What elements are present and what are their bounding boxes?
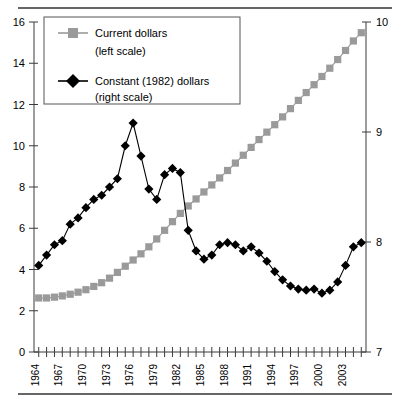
x-axis-tick-label: 1964	[30, 364, 41, 387]
data-point-current-dollars	[287, 105, 294, 112]
data-point-current-dollars	[59, 292, 66, 299]
x-axis-tick-label: 1991	[242, 364, 253, 387]
data-point-constant-dollars	[223, 238, 232, 247]
data-point-constant-dollars	[129, 118, 138, 127]
data-point-current-dollars	[137, 250, 144, 257]
data-point-current-dollars	[232, 159, 239, 166]
data-point-current-dollars	[114, 269, 121, 276]
data-point-current-dollars	[350, 37, 357, 44]
legend-marker-square-icon	[68, 28, 78, 38]
data-point-current-dollars	[169, 218, 176, 225]
left-axis-tick-label: 0	[19, 346, 25, 358]
chart-svg: 0246810121416 78910 19641967197019731976…	[0, 0, 400, 402]
left-axis-tick-label: 14	[13, 57, 25, 69]
data-point-current-dollars	[303, 89, 310, 96]
data-point-current-dollars	[35, 294, 42, 301]
x-axis-tick-label: 1985	[195, 364, 206, 387]
legend-sublabel-constant: (right scale)	[95, 91, 152, 103]
data-point-constant-dollars	[144, 184, 153, 193]
data-point-current-dollars	[334, 56, 341, 63]
left-axis-tick-label: 8	[19, 181, 25, 193]
chart-figure: 0246810121416 78910 19641967197019731976…	[0, 0, 400, 402]
data-point-current-dollars	[310, 81, 317, 88]
data-point-current-dollars	[240, 152, 247, 159]
data-point-constant-dollars	[207, 250, 216, 259]
data-point-constant-dollars	[121, 141, 130, 150]
data-point-current-dollars	[248, 144, 255, 151]
data-point-current-dollars	[208, 181, 215, 188]
data-point-constant-dollars	[58, 236, 67, 245]
x-axis-tick-label: 1982	[171, 364, 182, 387]
data-point-constant-dollars	[34, 261, 43, 270]
left-axis-tick-label: 16	[13, 16, 25, 28]
data-point-current-dollars	[145, 243, 152, 250]
data-point-constant-dollars	[341, 261, 350, 270]
x-axis-tick-label: 1994	[266, 364, 277, 387]
data-point-current-dollars	[263, 129, 270, 136]
data-point-current-dollars	[122, 263, 129, 270]
right-axis-tick-label: 10	[376, 16, 388, 28]
data-point-current-dollars	[358, 29, 365, 36]
right-axis-tick-label: 9	[376, 126, 382, 138]
data-point-constant-dollars	[184, 226, 193, 235]
x-axis-tick-labels: 1964196719701973197619791982198519881991…	[30, 364, 348, 387]
x-axis-tick-label: 1979	[148, 364, 159, 387]
x-axis-tick-label: 1967	[53, 364, 64, 387]
x-axis-tick-label: 1973	[101, 364, 112, 387]
data-point-constant-dollars	[317, 289, 326, 298]
right-axis-tick-label: 7	[376, 346, 382, 358]
x-axis-tick-label: 1997	[289, 364, 300, 387]
data-point-current-dollars	[216, 174, 223, 181]
data-point-current-dollars	[74, 289, 81, 296]
series-constant-dollars	[34, 118, 366, 297]
legend-label-current: Current dollars	[95, 27, 168, 39]
left-axis-tick-label: 2	[19, 305, 25, 317]
data-point-current-dollars	[177, 210, 184, 217]
data-point-constant-dollars	[294, 284, 303, 293]
data-point-constant-dollars	[215, 240, 224, 249]
x-axis-tick-label: 2000	[313, 364, 324, 387]
data-point-current-dollars	[161, 227, 168, 234]
data-point-constant-dollars	[176, 168, 185, 177]
data-point-current-dollars	[279, 113, 286, 120]
data-point-current-dollars	[90, 283, 97, 290]
data-point-current-dollars	[200, 188, 207, 195]
data-point-constant-dollars	[50, 240, 59, 249]
data-point-constant-dollars	[349, 242, 358, 251]
data-point-current-dollars	[192, 195, 199, 202]
left-axis-tick-label: 10	[13, 140, 25, 152]
data-point-current-dollars	[130, 256, 137, 263]
data-point-current-dollars	[106, 275, 113, 282]
data-point-current-dollars	[82, 286, 89, 293]
data-point-current-dollars	[51, 294, 58, 301]
data-point-current-dollars	[224, 167, 231, 174]
x-axis-tick-label: 1988	[219, 364, 230, 387]
data-point-current-dollars	[318, 73, 325, 80]
x-axis-tick-label: 1970	[77, 364, 88, 387]
data-point-current-dollars	[67, 291, 74, 298]
left-axis-tick-label: 4	[19, 264, 25, 276]
data-point-current-dollars	[98, 279, 105, 286]
data-point-current-dollars	[255, 136, 262, 143]
legend-label-constant: Constant (1982) dollars	[95, 75, 210, 87]
data-point-constant-dollars	[136, 151, 145, 160]
data-point-current-dollars	[271, 121, 278, 128]
data-point-current-dollars	[326, 65, 333, 72]
x-axis-tick-label: 1976	[124, 364, 135, 387]
data-point-constant-dollars	[357, 238, 366, 247]
chart-legend: Current dollars (left scale) Constant (1…	[44, 17, 240, 104]
data-point-constant-dollars	[309, 284, 318, 293]
data-point-current-dollars	[43, 294, 50, 301]
data-point-current-dollars	[342, 47, 349, 54]
left-axis-tick-label: 6	[19, 222, 25, 234]
right-axis-tick-label: 8	[376, 236, 382, 248]
x-axis-tick-label: 2003	[337, 364, 348, 387]
data-point-current-dollars	[295, 97, 302, 104]
data-point-constant-dollars	[302, 286, 311, 295]
left-axis-tick-label: 12	[13, 99, 25, 111]
legend-sublabel-current: (left scale)	[95, 45, 146, 57]
data-point-constant-dollars	[42, 250, 51, 259]
data-point-constant-dollars	[152, 195, 161, 204]
data-point-current-dollars	[153, 235, 160, 242]
